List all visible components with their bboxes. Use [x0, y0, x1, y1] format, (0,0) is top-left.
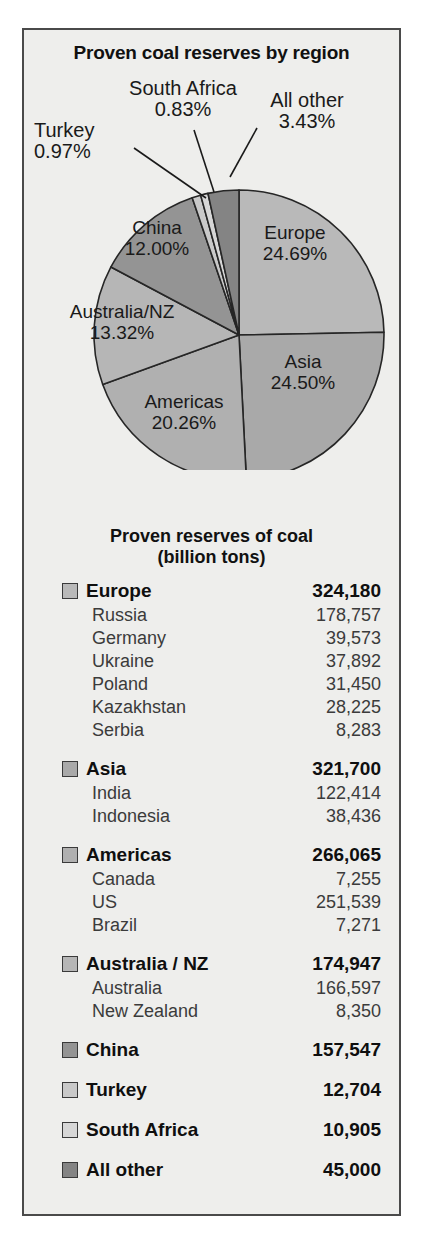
slice-label-americas: Americas 20.26% — [109, 392, 259, 433]
legend-swatch-icon — [62, 583, 78, 599]
slice-label-australia-nz-value: 13.32% — [42, 323, 202, 344]
table-title-line1: Proven reserves of coal — [24, 526, 399, 547]
table-row: Turkey12,704 — [24, 1077, 401, 1103]
country-name: Australia — [92, 977, 162, 1000]
table-row: Indonesia38,436 — [24, 805, 401, 828]
table-row: Poland31,450 — [24, 673, 401, 696]
slice-label-asia-name: Asia — [238, 352, 368, 373]
table-group: All other45,000 — [24, 1157, 401, 1183]
group-value: 174,947 — [312, 951, 381, 977]
slice-label-europe-value: 24.69% — [230, 244, 360, 265]
table-row: US251,539 — [24, 891, 401, 914]
callout-turkey-value: 0.97% — [34, 141, 144, 162]
country-name: Serbia — [92, 719, 144, 742]
country-value: 166,597 — [316, 977, 381, 1000]
table-row: Americas266,065 — [24, 842, 401, 868]
country-value: 7,271 — [336, 914, 381, 937]
table-row: Australia166,597 — [24, 977, 401, 1000]
country-name: New Zealand — [92, 1000, 198, 1023]
slice-label-europe: Europe 24.69% — [230, 223, 360, 264]
country-value: 7,255 — [336, 868, 381, 891]
pie-leader-lines — [134, 128, 257, 198]
group-value: 157,547 — [312, 1037, 381, 1063]
country-name: India — [92, 782, 131, 805]
table-title-line2: (billion tons) — [24, 547, 399, 568]
legend-swatch-icon — [62, 761, 78, 777]
table-row: South Africa10,905 — [24, 1117, 401, 1143]
country-name: Brazil — [92, 914, 137, 937]
country-value: 8,350 — [336, 1000, 381, 1023]
group-value: 10,905 — [323, 1117, 381, 1143]
reserves-table: Europe324,180Russia178,757Germany39,573U… — [24, 578, 401, 1183]
group-value: 266,065 — [312, 842, 381, 868]
callout-all-other-name: All other — [242, 90, 372, 111]
table-row: Europe324,180 — [24, 578, 401, 604]
legend-swatch-icon — [62, 956, 78, 972]
country-name: Germany — [92, 627, 166, 650]
legend-swatch-icon — [62, 1162, 78, 1178]
table-group: China157,547 — [24, 1037, 401, 1063]
table-row: Brazil7,271 — [24, 914, 401, 937]
table-row: Ukraine37,892 — [24, 650, 401, 673]
slice-label-china-name: China — [92, 218, 222, 239]
pie-chart: South Africa 0.83% All other 3.43% Turke… — [24, 30, 401, 470]
group-name: Turkey — [86, 1077, 147, 1103]
group-name: Australia / NZ — [86, 951, 208, 977]
table-row: Serbia8,283 — [24, 719, 401, 742]
table-group: Europe324,180Russia178,757Germany39,573U… — [24, 578, 401, 742]
slice-label-china: China 12.00% — [92, 218, 222, 259]
table-row: Australia / NZ174,947 — [24, 951, 401, 977]
country-value: 8,283 — [336, 719, 381, 742]
group-name: Europe — [86, 578, 151, 604]
country-value: 251,539 — [316, 891, 381, 914]
country-name: Russia — [92, 604, 147, 627]
group-name: Americas — [86, 842, 172, 868]
country-name: US — [92, 891, 117, 914]
group-name: China — [86, 1037, 139, 1063]
table-row: Asia321,700 — [24, 756, 401, 782]
country-value: 178,757 — [316, 604, 381, 627]
slice-label-australia-nz-name: Australia/NZ — [42, 302, 202, 323]
group-value: 321,700 — [312, 756, 381, 782]
table-row: India122,414 — [24, 782, 401, 805]
table-row: Russia178,757 — [24, 604, 401, 627]
table-group: Turkey12,704 — [24, 1077, 401, 1103]
slice-label-americas-value: 20.26% — [109, 413, 259, 434]
table-group: South Africa10,905 — [24, 1117, 401, 1143]
country-value: 28,225 — [326, 696, 381, 719]
table-row: Germany39,573 — [24, 627, 401, 650]
table-row: All other45,000 — [24, 1157, 401, 1183]
country-value: 37,892 — [326, 650, 381, 673]
table-row: New Zealand8,350 — [24, 1000, 401, 1023]
legend-swatch-icon — [62, 1042, 78, 1058]
slice-label-americas-name: Americas — [109, 392, 259, 413]
country-name: Indonesia — [92, 805, 170, 828]
table-title: Proven reserves of coal (billion tons) — [24, 526, 399, 568]
table-group: Asia321,700India122,414Indonesia38,436 — [24, 756, 401, 828]
slice-label-china-value: 12.00% — [92, 239, 222, 260]
callout-all-other-value: 3.43% — [242, 111, 372, 132]
country-name: Canada — [92, 868, 155, 891]
group-name: All other — [86, 1157, 163, 1183]
country-value: 122,414 — [316, 782, 381, 805]
infographic-panel: Proven coal reserves by region South Afr… — [22, 28, 401, 1216]
callout-turkey: Turkey 0.97% — [34, 120, 144, 162]
legend-swatch-icon — [62, 847, 78, 863]
callout-turkey-name: Turkey — [34, 120, 144, 141]
legend-swatch-icon — [62, 1082, 78, 1098]
country-name: Kazakhstan — [92, 696, 186, 719]
slice-label-asia-value: 24.50% — [238, 373, 368, 394]
country-value: 38,436 — [326, 805, 381, 828]
country-name: Ukraine — [92, 650, 154, 673]
slice-label-australia-nz: Australia/NZ 13.32% — [42, 302, 202, 343]
table-row: Kazakhstan28,225 — [24, 696, 401, 719]
group-name: Asia — [86, 756, 126, 782]
callout-all-other: All other 3.43% — [242, 90, 372, 132]
group-value: 45,000 — [323, 1157, 381, 1183]
country-value: 39,573 — [326, 627, 381, 650]
group-value: 324,180 — [312, 578, 381, 604]
table-row: Canada7,255 — [24, 868, 401, 891]
table-group: Americas266,065Canada7,255US251,539Brazi… — [24, 842, 401, 937]
group-name: South Africa — [86, 1117, 198, 1143]
leader-line-turkey — [134, 148, 206, 198]
